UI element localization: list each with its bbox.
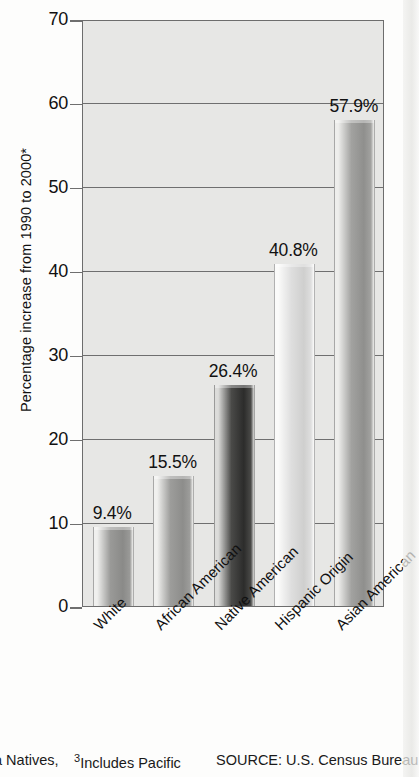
y-axis-ticks: 70 60 50 40 30 20 10 0 bbox=[0, 0, 82, 607]
bar-top-cap bbox=[154, 476, 193, 479]
bar-top-cap bbox=[275, 264, 314, 267]
value-label-native-american: 26.4% bbox=[198, 361, 268, 382]
y-tick-label-20: 20 bbox=[48, 429, 68, 450]
y-tick-mark-70 bbox=[70, 20, 82, 22]
bar-top-cap bbox=[335, 120, 374, 123]
y-tick-mark-60 bbox=[70, 104, 82, 106]
source-note: SOURCE: U.S. Census Bureau bbox=[216, 752, 418, 768]
bar-top-cap bbox=[94, 527, 133, 530]
y-tick-label-10: 10 bbox=[48, 513, 68, 534]
y-tick-mark-30 bbox=[70, 356, 82, 358]
x-axis-labels: WhiteAfrican AmericanNative AmericanHisp… bbox=[0, 607, 419, 725]
value-label-hispanic-origin: 40.8% bbox=[258, 240, 328, 261]
y-tick-mark-20 bbox=[70, 440, 82, 442]
bar-asian-american[interactable] bbox=[334, 120, 375, 606]
y-tick-label-70: 70 bbox=[48, 9, 68, 30]
y-tick-mark-40 bbox=[70, 272, 82, 274]
value-label-african-american: 15.5% bbox=[138, 452, 208, 473]
value-label-asian-american: 57.9% bbox=[319, 96, 389, 117]
footnote-left-fragment: a Natives, bbox=[0, 752, 58, 768]
footnote-includes-pacific: 3Includes Pacific bbox=[74, 752, 181, 771]
y-tick-label-60: 60 bbox=[48, 93, 68, 114]
footnote-row: a Natives, 3Includes Pacific SOURCE: U.S… bbox=[0, 752, 419, 777]
y-tick-mark-50 bbox=[70, 188, 82, 190]
y-tick-label-50: 50 bbox=[48, 177, 68, 198]
bar-white[interactable] bbox=[93, 527, 134, 606]
page-edge-shadow bbox=[403, 0, 419, 777]
bar-chart-figure: Percentage increase from 1990 to 2000* 7… bbox=[0, 0, 419, 777]
y-tick-label-40: 40 bbox=[48, 261, 68, 282]
footnote-middle-text: Includes Pacific bbox=[80, 755, 181, 771]
value-label-white: 9.4% bbox=[77, 503, 147, 524]
y-tick-label-30: 30 bbox=[48, 345, 68, 366]
bar-top-cap bbox=[215, 385, 254, 388]
